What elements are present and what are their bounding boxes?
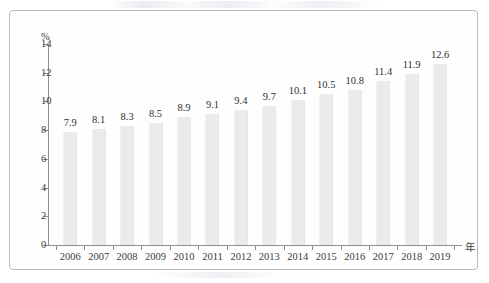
scan-artifact-top <box>110 1 380 8</box>
x-tick-label: 2015 <box>316 252 337 263</box>
bar-value-label: 10.5 <box>317 80 335 91</box>
bar-value-label: 11.9 <box>403 60 421 71</box>
bar <box>63 132 77 245</box>
bar-value-label: 7.9 <box>64 118 77 129</box>
x-tick-label: 2016 <box>344 252 365 263</box>
x-tick-mark <box>255 245 256 250</box>
bar-value-label: 8.1 <box>92 115 105 126</box>
x-tick-mark <box>198 245 199 250</box>
bar-chart-plot-area: % 年 02468101214 7.98.18.38.58.99.19.49.7… <box>10 11 477 269</box>
x-tick-label: 2010 <box>174 252 195 263</box>
bar-value-label: 8.3 <box>121 112 134 123</box>
bar <box>92 129 106 245</box>
bar <box>433 64 447 245</box>
x-tick-mark <box>141 245 142 250</box>
x-tick-mark <box>227 245 228 250</box>
bar-value-label: 9.4 <box>234 96 247 107</box>
bar <box>262 106 276 245</box>
x-tick-label: 2013 <box>259 252 280 263</box>
x-tick-label: 2009 <box>145 252 166 263</box>
bar-value-label: 9.1 <box>206 100 219 111</box>
bar <box>234 110 248 245</box>
bar-value-label: 8.9 <box>177 103 190 114</box>
x-tick-mark <box>341 245 342 250</box>
x-tick-mark <box>426 245 427 250</box>
bar-value-label: 12.6 <box>431 50 449 61</box>
x-tick-mark <box>312 245 313 250</box>
x-tick-mark <box>56 245 57 250</box>
bar <box>177 117 191 245</box>
x-tick-label: 2006 <box>60 252 81 263</box>
x-tick-label: 2018 <box>401 252 422 263</box>
x-tick-label: 2008 <box>117 252 138 263</box>
bar <box>205 114 219 245</box>
bar-value-label: 9.7 <box>263 92 276 103</box>
bar <box>291 100 305 245</box>
bar-value-label: 11.4 <box>374 67 392 78</box>
x-tick-label: 2014 <box>287 252 308 263</box>
x-tick-label: 2012 <box>230 252 251 263</box>
chart-frame: % 年 02468101214 7.98.18.38.58.99.19.49.7… <box>9 10 478 270</box>
bar <box>319 94 333 245</box>
x-tick-label: 2011 <box>202 252 223 263</box>
bar-value-label: 8.5 <box>149 109 162 120</box>
x-tick-mark <box>397 245 398 250</box>
bar <box>348 90 362 245</box>
bar <box>376 81 390 245</box>
x-tick-mark <box>369 245 370 250</box>
scan-artifact-bottom <box>150 272 330 278</box>
bar-value-label: 10.1 <box>289 86 307 97</box>
bar <box>405 74 419 245</box>
bar <box>149 123 163 245</box>
x-tick-label: 2007 <box>88 252 109 263</box>
bar-value-label: 10.8 <box>346 76 364 87</box>
bar <box>120 126 134 245</box>
x-tick-mark <box>84 245 85 250</box>
x-tick-mark <box>170 245 171 250</box>
x-tick-label: 2019 <box>430 252 451 263</box>
bar-series <box>10 11 477 245</box>
x-tick-mark <box>454 245 455 250</box>
x-tick-mark <box>284 245 285 250</box>
x-tick-mark <box>113 245 114 250</box>
x-tick-label: 2017 <box>373 252 394 263</box>
